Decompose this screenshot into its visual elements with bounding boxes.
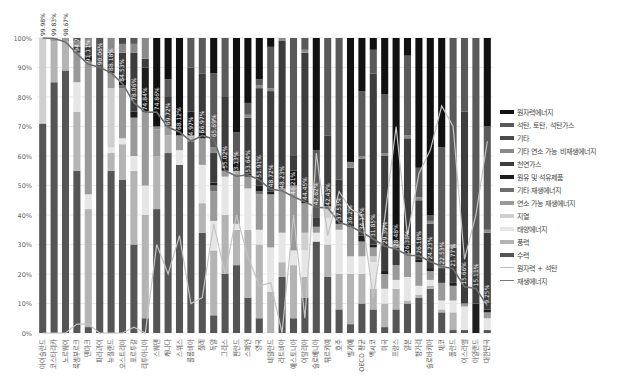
legend-swatch-icon bbox=[500, 123, 514, 127]
data-label: 48.23% bbox=[278, 166, 285, 189]
bar-segment bbox=[381, 304, 388, 328]
data-label: 44.45% bbox=[301, 177, 308, 200]
data-label: 37.53% bbox=[335, 197, 342, 220]
legend-swatch-icon bbox=[500, 110, 514, 114]
bar-segment bbox=[450, 301, 457, 313]
bar-35 bbox=[427, 38, 434, 333]
x-axis-label: 체코 bbox=[438, 339, 446, 351]
bar-segment bbox=[267, 88, 274, 91]
x-axis-label: 아일랜드 bbox=[471, 339, 480, 363]
bar-segment bbox=[130, 44, 137, 53]
bar-27 bbox=[336, 38, 343, 333]
x-axis-label: 룩셈부르크 bbox=[72, 339, 81, 369]
x-axis-label: 프랑스 bbox=[392, 339, 400, 357]
bar-segment bbox=[244, 177, 251, 189]
bar-segment bbox=[370, 289, 377, 310]
bar-segment bbox=[187, 141, 194, 333]
bar-segment bbox=[301, 50, 308, 53]
bar-segment bbox=[165, 135, 172, 153]
data-label: 78.06% bbox=[130, 78, 137, 101]
legend-item: 천연가스 bbox=[500, 157, 596, 170]
bar-segment bbox=[244, 188, 251, 229]
bar-segment bbox=[290, 318, 297, 333]
legend-swatch-icon bbox=[500, 136, 514, 140]
bar-segment bbox=[279, 188, 286, 232]
bar-segment bbox=[381, 153, 388, 156]
bar-segment bbox=[153, 156, 160, 209]
bar-13 bbox=[176, 38, 183, 333]
bar-segment bbox=[404, 304, 411, 334]
bar-segment bbox=[62, 70, 69, 333]
bar-segment bbox=[267, 194, 274, 247]
data-label: 9.25% bbox=[483, 284, 490, 303]
bar-18 bbox=[233, 38, 240, 333]
bar-segment bbox=[358, 256, 365, 274]
bar-32 bbox=[393, 38, 400, 333]
bar-segment bbox=[438, 309, 445, 312]
bar-segment bbox=[381, 94, 388, 153]
bar-segment bbox=[142, 59, 149, 68]
bar-15 bbox=[199, 38, 206, 333]
bar-segment bbox=[153, 129, 160, 156]
bar-segment bbox=[233, 38, 240, 132]
bar-segment bbox=[256, 85, 263, 88]
bar-segment bbox=[256, 194, 263, 229]
bar-10 bbox=[142, 38, 149, 333]
x-axis-label: 덴마크 bbox=[83, 339, 92, 357]
legend-item: 석탄, 토탄, 석탄가스 bbox=[500, 118, 596, 131]
bar-segment bbox=[267, 292, 274, 333]
bar-segment bbox=[370, 256, 377, 262]
bar-segment bbox=[415, 262, 422, 286]
bar-segment bbox=[450, 286, 457, 301]
bar-segment bbox=[244, 38, 251, 103]
bar-segment bbox=[415, 298, 422, 333]
data-label: 31.85% bbox=[369, 214, 376, 237]
y-tick-label: 100% bbox=[13, 35, 32, 43]
bar-segment bbox=[108, 147, 115, 153]
bar-segment bbox=[484, 330, 491, 333]
bar-segment bbox=[256, 191, 263, 194]
bar-segment bbox=[404, 135, 411, 138]
data-label: 42.62% bbox=[312, 182, 319, 205]
bar-segment bbox=[279, 233, 286, 263]
bar-4 bbox=[73, 38, 80, 333]
legend-label: 천연가스 bbox=[517, 159, 541, 169]
legend-swatch-icon bbox=[500, 227, 514, 231]
bar-segment bbox=[381, 271, 388, 274]
bar-segment bbox=[427, 38, 434, 215]
bar-30 bbox=[370, 38, 377, 333]
bar-12 bbox=[165, 38, 172, 333]
bar-11 bbox=[153, 38, 160, 333]
bar-segment bbox=[187, 38, 194, 68]
bar-36 bbox=[438, 38, 445, 333]
legend-swatch-icon bbox=[500, 188, 514, 192]
bar-segment bbox=[324, 277, 331, 333]
bar-segment bbox=[210, 250, 217, 315]
legend-item: 연소 가능 재생에너지 bbox=[500, 196, 596, 209]
legend-item: 원자력에너지 bbox=[500, 105, 596, 118]
bar-segment bbox=[484, 38, 491, 127]
bar-segment bbox=[85, 209, 92, 327]
legend-label: 기타 재생에너지 bbox=[517, 185, 561, 195]
bar-segment bbox=[301, 203, 308, 233]
x-axis-label: 핀란드 bbox=[232, 339, 241, 357]
bar-segment bbox=[438, 301, 445, 310]
bar-segment bbox=[176, 150, 183, 165]
bar-segment bbox=[427, 268, 434, 271]
bar-segment bbox=[415, 259, 422, 262]
bar-segment bbox=[244, 115, 251, 118]
bar-segment bbox=[39, 38, 46, 124]
legend-label: 풍력 bbox=[517, 237, 529, 247]
data-label: 91.11% bbox=[84, 39, 91, 62]
bar-segment bbox=[393, 280, 400, 289]
y-tick-label: 40% bbox=[18, 212, 32, 220]
bar-segment bbox=[301, 233, 308, 251]
bar-segment bbox=[153, 127, 160, 130]
x-axis-label: 칠레 bbox=[197, 339, 206, 351]
x-axis-label: 헝가리 bbox=[414, 339, 423, 357]
data-label: 29.39% bbox=[381, 221, 388, 244]
bar-segment bbox=[85, 327, 92, 333]
y-tick-label: 0% bbox=[22, 330, 32, 338]
y-tick-label: 10% bbox=[18, 300, 32, 308]
legend-swatch-icon bbox=[500, 214, 514, 218]
